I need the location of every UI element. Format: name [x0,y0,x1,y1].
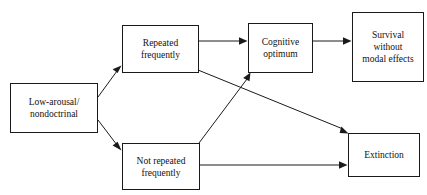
edge-not-repeated-to-extinction [200,161,348,168]
node-survival-without-modal-effects-label: Survival without modal effects [360,29,415,65]
edge-not-repeated-to-cognitive [199,73,251,144]
edge-low-arousal-to-not-repeated [98,120,122,151]
edge-low-arousal-to-repeated [98,66,122,98]
edge-cognitive-to-survival [313,37,352,44]
node-low-arousal[interactable]: Low-arousal/ nondoctrinal [10,83,98,133]
node-extinction-label: Extinction [362,149,406,161]
node-cognitive-optimum[interactable]: Cognitive optimum [248,23,313,73]
flowchart-diagram: Low-arousal/ nondoctrinal Repeated frequ… [0,0,427,195]
node-low-arousal-label: Low-arousal/ nondoctrinal [27,96,82,120]
node-extinction[interactable]: Extinction [348,133,420,177]
edge-repeated-to-extinction [198,70,349,134]
node-survival-without-modal-effects[interactable]: Survival without modal effects [352,12,424,82]
node-repeated-frequently[interactable]: Repeated frequently [122,25,199,73]
node-repeated-frequently-label: Repeated frequently [139,37,182,61]
node-not-repeated-frequently[interactable]: Not repeated frequently [122,143,200,190]
node-cognitive-optimum-label: Cognitive optimum [260,36,301,60]
edge-repeated-to-cognitive [199,37,248,44]
node-not-repeated-frequently-label: Not repeated frequently [135,155,188,179]
